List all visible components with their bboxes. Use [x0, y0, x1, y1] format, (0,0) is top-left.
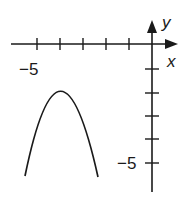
x-axis-arrow-icon	[165, 39, 178, 49]
y-axis-label: y	[161, 13, 172, 32]
parabola-curve	[25, 91, 98, 177]
x-axis-label: x	[166, 52, 176, 71]
y-tick-label: −5	[117, 154, 136, 173]
coordinate-plane: y x −5 −5	[0, 0, 190, 199]
x-tick-label: −5	[19, 60, 38, 79]
y-axis-arrow-icon	[147, 20, 157, 33]
